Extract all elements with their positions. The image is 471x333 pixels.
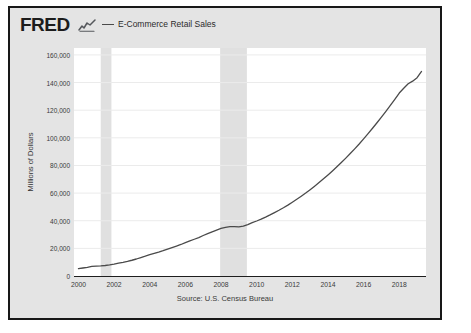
x-axis-tick-label: 2016 <box>356 281 371 288</box>
legend-series-label: E-Commerce Retail Sales <box>118 19 216 29</box>
x-axis-tick-label: 2000 <box>71 281 86 288</box>
y-axis-tick-label: 140,000 <box>47 79 71 86</box>
y-axis-tick-label: 80,000 <box>50 162 70 169</box>
legend-line-marker <box>102 24 114 25</box>
x-axis-tick-label: 2018 <box>392 281 407 288</box>
x-axis-tick-label: 2010 <box>249 281 264 288</box>
x-axis-tick-label: 2014 <box>320 281 335 288</box>
x-axis-tick-label: 2002 <box>107 281 122 288</box>
squiggle-chart-icon <box>78 18 96 31</box>
source-note: Source: U.S. Census Bureau <box>10 294 440 303</box>
line-chart-svg <box>74 48 426 276</box>
y-axis-tick-label: 0 <box>66 273 70 280</box>
plot-area: 160,000140,000120,000100,00080,00060,000… <box>74 48 426 276</box>
x-axis-tick-label: 2006 <box>178 281 193 288</box>
y-axis-tick-label: 100,000 <box>47 134 71 141</box>
fred-chart-figure: FRED E-Commerce Retail Sales Millions of… <box>8 6 442 320</box>
plot-canvas <box>74 48 426 276</box>
chart-header: FRED E-Commerce Retail Sales <box>10 8 440 42</box>
y-axis-tick-label: 20,000 <box>50 245 70 252</box>
data-series-line <box>78 71 421 268</box>
y-axis-tick-label: 120,000 <box>47 107 71 114</box>
y-axis-tick-label: 40,000 <box>50 217 70 224</box>
y-axis-tick-label: 160,000 <box>47 51 71 58</box>
y-axis-title: Millions of Dollars <box>26 48 38 276</box>
x-axis-line <box>74 276 426 277</box>
x-axis-tick-label: 2012 <box>285 281 300 288</box>
x-axis-tick-label: 2004 <box>142 281 157 288</box>
y-axis-tick-label: 60,000 <box>50 190 70 197</box>
fred-logo: FRED <box>20 14 70 36</box>
chart-legend: E-Commerce Retail Sales <box>102 19 216 29</box>
x-axis-tick-label: 2008 <box>213 281 228 288</box>
